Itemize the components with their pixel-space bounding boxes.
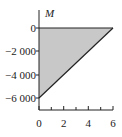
y-axis-label: M xyxy=(44,7,55,19)
y-tick-label: −6 000 xyxy=(5,92,36,104)
x-ticks xyxy=(39,106,113,110)
x-tick-label: 2 xyxy=(61,117,67,129)
moment-diagram-chart: M 0 −2 000 −4 000 −6 000 0 2 4 6 xyxy=(0,0,122,137)
y-tick-label: 0 xyxy=(31,22,37,34)
x-tick-label: 4 xyxy=(86,117,92,129)
y-tick-label: −4 000 xyxy=(5,69,36,81)
y-tick-label: −2 000 xyxy=(5,45,36,57)
x-tick-label: 6 xyxy=(110,117,116,129)
x-tick-label: 0 xyxy=(36,117,42,129)
